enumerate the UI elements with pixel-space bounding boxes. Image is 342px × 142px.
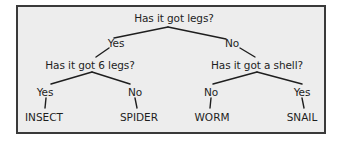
shell-question: Has it got a shell? [211, 60, 303, 71]
shell-no-branch [213, 72, 257, 84]
result-worm: WORM [194, 112, 229, 123]
shell-no-label: No [204, 87, 218, 98]
yes-to-six-legs-connector [96, 48, 109, 57]
root-no-label: No [225, 38, 239, 49]
six-legs-no-label: No [128, 87, 142, 98]
insect-connector [45, 98, 46, 108]
root-question: Has it got legs? [134, 13, 214, 24]
six-legs-yes-branch [51, 72, 92, 84]
six-legs-yes-label: Yes [37, 87, 54, 98]
no-to-shell-connector [240, 48, 255, 57]
snail-connector [302, 98, 304, 108]
result-insect: INSECT [25, 112, 63, 123]
root-yes-label: Yes [108, 38, 125, 49]
worm-connector [210, 98, 211, 108]
root-no-branch [168, 27, 226, 39]
spider-connector [135, 98, 137, 108]
six-legs-question: Has it got 6 legs? [45, 60, 134, 71]
shell-yes-branch [257, 72, 302, 84]
shell-yes-label: Yes [294, 87, 311, 98]
result-spider: SPIDER [120, 112, 158, 123]
result-snail: SNAIL [287, 112, 318, 123]
six-legs-no-branch [92, 72, 130, 84]
